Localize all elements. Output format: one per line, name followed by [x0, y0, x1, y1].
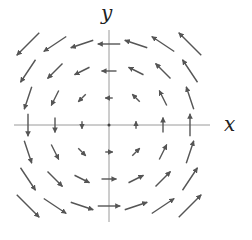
vector-arrow — [129, 67, 144, 75]
vector-arrow — [78, 94, 86, 102]
vector-arrow — [75, 67, 90, 75]
vector-arrow — [71, 40, 94, 48]
vector-arrow — [152, 37, 175, 52]
vector-arrow — [48, 172, 63, 187]
vector-arrow — [17, 195, 40, 218]
vector-arrow — [44, 37, 67, 52]
vector-arrow — [179, 33, 202, 56]
vector-field-diagram: x y — [0, 0, 252, 240]
vector-arrow — [78, 148, 86, 156]
vector-arrow — [21, 168, 36, 191]
vector-arrow — [21, 60, 36, 83]
x-axis-label: x — [224, 112, 235, 136]
vector-arrow — [183, 168, 198, 191]
vector-arrow — [44, 199, 67, 214]
vector-arrow — [132, 94, 140, 102]
origin-dot — [108, 124, 111, 127]
vector-arrow — [186, 141, 194, 164]
vector-arrow — [24, 87, 32, 110]
vector-arrow — [152, 199, 175, 214]
vector-arrow — [17, 33, 40, 56]
vector-arrow — [159, 145, 167, 160]
vector-arrow — [71, 202, 94, 210]
vector-arrow — [179, 195, 202, 218]
vector-arrow — [183, 60, 198, 83]
vector-arrow — [125, 40, 148, 48]
y-axis-label: y — [100, 1, 113, 25]
vector-arrow — [24, 141, 32, 164]
vector-arrow — [48, 64, 63, 79]
vector-arrow — [75, 175, 90, 183]
vector-arrow — [125, 202, 148, 210]
vector-arrow — [132, 148, 140, 156]
vector-arrow — [156, 172, 171, 187]
vector-arrow — [186, 87, 194, 110]
vector-arrow — [129, 175, 144, 183]
vector-arrow — [159, 91, 167, 106]
vector-arrow — [51, 91, 59, 106]
vector-arrow — [51, 145, 59, 160]
vector-arrow — [156, 64, 171, 79]
